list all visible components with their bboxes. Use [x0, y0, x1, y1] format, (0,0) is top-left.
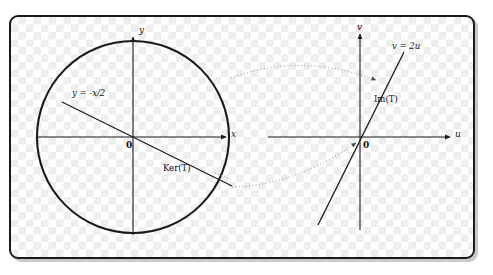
y-axis-label: y	[139, 26, 144, 35]
image-line-equation-label: v = 2u	[392, 42, 420, 51]
figure-stage: y x 0 y = -x/2 Ker(T) v u 0 v = 2u Im(T)	[0, 0, 493, 275]
left-origin-label: 0	[126, 141, 132, 150]
image-annotation-label: Im(T)	[374, 95, 398, 104]
u-axis-label: u	[455, 130, 461, 139]
v-axis-label: v	[357, 23, 362, 32]
right-origin-label: 0	[363, 141, 369, 150]
kernel-line-equation-label: y = -x/2	[72, 89, 105, 98]
x-axis-label: x	[231, 130, 236, 139]
figure-panel	[9, 15, 475, 259]
kernel-annotation-label: Ker(T)	[163, 164, 191, 173]
